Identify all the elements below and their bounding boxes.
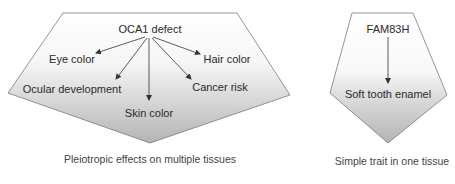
soft-tooth-enamel-label: Soft tooth enamel xyxy=(345,88,431,101)
ocular-development-label: Ocular development xyxy=(23,83,121,96)
cancer-risk-label: Cancer risk xyxy=(192,81,248,94)
eye-color-label: Eye color xyxy=(49,53,95,66)
fam83h-label: FAM83H xyxy=(367,23,410,36)
skin-color-label: Skin color xyxy=(125,107,173,120)
hair-color-label: Hair color xyxy=(203,53,250,66)
right-caption: Simple trait in one tissue xyxy=(335,155,449,167)
left-caption: Pleiotropic effects on multiple tissues xyxy=(64,153,236,165)
oca1-defect-label: OCA1 defect xyxy=(119,23,182,36)
